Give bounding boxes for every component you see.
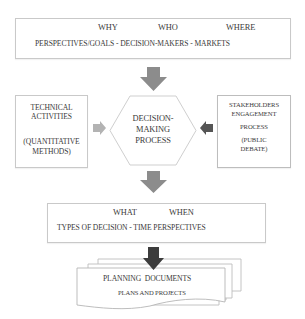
documents-title: PLANNING DOCUMENTS <box>103 274 191 283</box>
planning-documents-stack <box>0 0 305 319</box>
documents-subtitle: PLANS AND PROJECTS <box>118 289 186 296</box>
arrow-down-dark-icon <box>143 247 164 270</box>
